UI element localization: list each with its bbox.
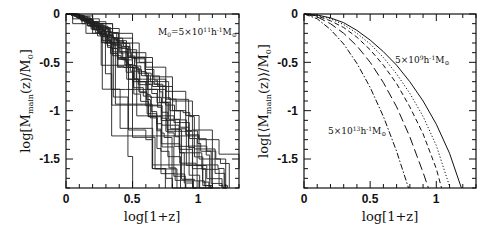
left-ytick-neg1.5: -1.5: [39, 152, 60, 166]
right-ytick-0: 0: [291, 7, 298, 21]
right-mean-curves: [304, 14, 461, 188]
right-panel: 0 -0.5 -1 -1.5 0 0.5 1 log[1+z] log[⟨Mma…: [256, 7, 476, 224]
right-plot-frame: [304, 14, 476, 188]
right-x-axis-label: log[1+z]: [362, 209, 418, 224]
mean-curve-short-dash: [304, 14, 442, 188]
right-y-axis-label: log[⟨Mmain(z)⟩/M0]: [256, 44, 273, 158]
left-xtick-1: 1: [195, 192, 202, 206]
left-ytick-0: 0: [53, 7, 60, 21]
right-annotation-5e13: 5×1013h-1M⊙: [328, 125, 386, 137]
left-x-axis-label: log[1+z]: [124, 209, 180, 224]
right-ytick-neg1.5: -1.5: [277, 152, 298, 166]
mean-curve-dotted: [304, 14, 450, 186]
accretion-track: [66, 14, 185, 188]
right-axis-ticks: [304, 14, 476, 188]
figure: 0 -0.5 -1 -1.5 0 0.5 1 log[1+z] log[Mmai…: [0, 0, 491, 230]
mean-curve-long-dash: [304, 14, 428, 188]
left-xtick-0: 0: [63, 192, 70, 206]
left-ytick-neg1: -1: [49, 104, 60, 118]
right-annotation-5e9: 5×109h-1M⊙: [395, 54, 449, 66]
mean-curve-dot-dash: [304, 14, 409, 188]
left-ytick-neg0.5: -0.5: [39, 56, 60, 70]
right-ytick-neg1: -1: [287, 104, 298, 118]
left-y-axis-label: log[Mmain(z)/M0]: [18, 49, 35, 153]
left-xtick-0.5: 0.5: [124, 192, 141, 206]
mean-curve-solid: [304, 14, 461, 188]
left-mass-annotation: M0=5×1011h-1M⊙: [158, 26, 237, 38]
left-panel: 0 -0.5 -1 -1.5 0 0.5 1 log[1+z] log[Mmai…: [18, 7, 239, 224]
accretion-track: [66, 14, 181, 188]
right-ytick-neg0.5: -0.5: [277, 56, 298, 70]
right-xtick-0.5: 0.5: [362, 192, 379, 206]
right-xtick-1: 1: [433, 192, 440, 206]
left-track-lines: [66, 14, 239, 188]
accretion-track: [66, 14, 177, 188]
right-xtick-0: 0: [301, 192, 308, 206]
